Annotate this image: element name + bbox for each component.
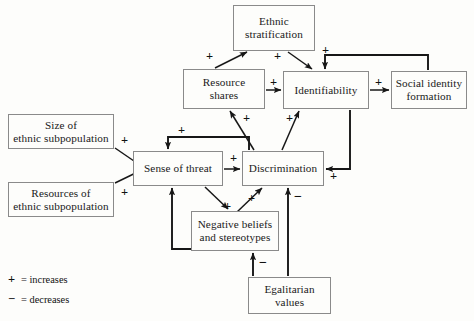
edge-social-identity-to-identifiability	[325, 55, 428, 70]
sign-resources-to-threat: +	[121, 186, 128, 199]
node-discrimination[interactable]: Discrimination	[242, 151, 324, 186]
sign-discrimination-feedback-threat: +	[178, 124, 185, 137]
diagram-canvas: Ethnicstratification Resourceshares Iden…	[0, 0, 474, 321]
node-ethnic-stratification[interactable]: Ethnicstratification	[233, 5, 315, 51]
sign-discrimination-to-identifiability: +	[286, 112, 293, 125]
legend-text: = decreases	[21, 294, 69, 305]
node-size-of-ethnic-subpopulation[interactable]: Size ofethnic subpopulation	[8, 114, 114, 149]
sign-size-to-threat: +	[121, 134, 128, 147]
sign-discrimination-to-resource: +	[243, 112, 250, 125]
edge-discrimination-to-sense-of-threat	[168, 137, 249, 150]
node-resource-shares[interactable]: Resourceshares	[183, 69, 265, 109]
node-social-identity-formation[interactable]: Social identityformation	[391, 71, 467, 109]
legend-row-1: += increases	[8, 272, 69, 287]
sign-threat-to-discrimination: +	[230, 152, 237, 165]
sign-stratification-to-identifiability: +	[274, 50, 281, 63]
sign-identifiability-to-discrimination: +	[330, 170, 337, 183]
sign-egalitarian-to-negative: −	[259, 256, 267, 270]
legend-row-2: −= decreases	[8, 292, 69, 307]
sign-social-identity-feedback: +	[322, 44, 329, 57]
node-negative-beliefs[interactable]: Negative beliefsand stereotypes	[191, 211, 279, 251]
edge-ethnic-stratification-to-identifiability	[288, 52, 312, 69]
node-resources-of-ethnic-subpopulation[interactable]: Resources ofethnic subpopulation	[8, 182, 114, 217]
sign-resource-to-identifiability: +	[270, 76, 277, 89]
legend-symbol: +	[8, 272, 21, 287]
legend: += increases−= decreases	[8, 272, 69, 312]
edge-discrimination-to-resource-shares	[230, 111, 254, 150]
edge-identifiability-to-discrimination	[326, 110, 350, 169]
legend-text: = increases	[21, 274, 68, 285]
sign-resource-to-stratification: +	[206, 50, 213, 63]
node-egalitarian-values[interactable]: Egalitarianvalues	[248, 277, 331, 314]
node-sense-of-threat[interactable]: Sense of threat	[133, 151, 223, 186]
legend-symbol: −	[8, 292, 21, 307]
sign-egalitarian-to-discrimination: −	[294, 190, 302, 204]
sign-negative-to-discrimination: +	[248, 192, 255, 205]
node-identifiability[interactable]: Identifiability	[283, 71, 369, 109]
edge-resource-shares-to-ethnic-stratification	[215, 52, 247, 68]
sign-identifiability-to-social: +	[375, 76, 382, 89]
sign-threat-to-negative: +	[224, 200, 231, 213]
